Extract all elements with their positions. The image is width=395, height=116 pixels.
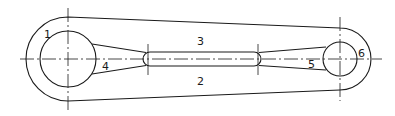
label-3: 3 bbox=[197, 35, 204, 48]
label-2: 2 bbox=[197, 75, 204, 88]
right-taper-top bbox=[259, 47, 326, 53]
left-taper-top bbox=[92, 44, 146, 53]
link-drawing: 1 2 3 4 5 6 bbox=[0, 0, 395, 116]
label-5: 5 bbox=[308, 58, 315, 71]
label-1: 1 bbox=[44, 28, 51, 41]
left-taper-bottom bbox=[92, 66, 146, 75]
label-6: 6 bbox=[358, 47, 365, 60]
diagram-svg: 1 2 3 4 5 6 bbox=[0, 0, 395, 116]
label-4: 4 bbox=[102, 60, 109, 73]
right-taper-bottom bbox=[259, 66, 326, 71]
